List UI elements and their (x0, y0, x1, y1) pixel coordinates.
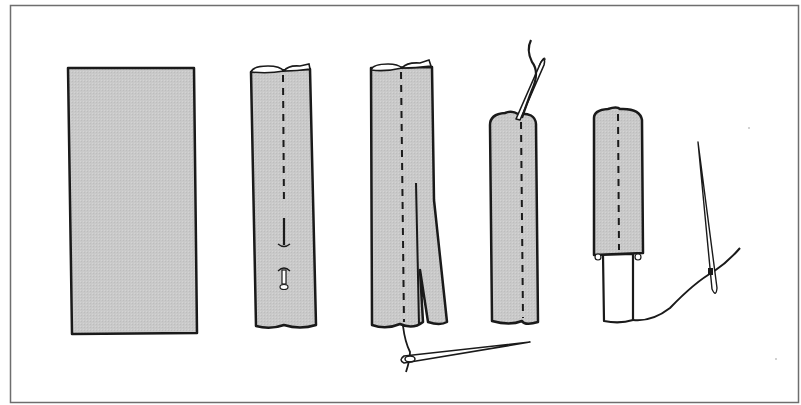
thread (403, 326, 410, 372)
rouleau-diagram (0, 0, 801, 405)
needle-icon (698, 142, 717, 293)
needle-icon (401, 342, 530, 363)
needle-eye (708, 268, 713, 275)
pin-head (282, 270, 286, 284)
step-4-tube-with-needle (490, 40, 545, 324)
step-1-fabric-strip (68, 68, 197, 334)
turned-tube-white-section (603, 254, 633, 322)
step-2-folded-strip (251, 64, 316, 328)
step-5-turned-tube (594, 108, 740, 323)
needle-icon (516, 60, 545, 120)
thread (633, 248, 740, 320)
